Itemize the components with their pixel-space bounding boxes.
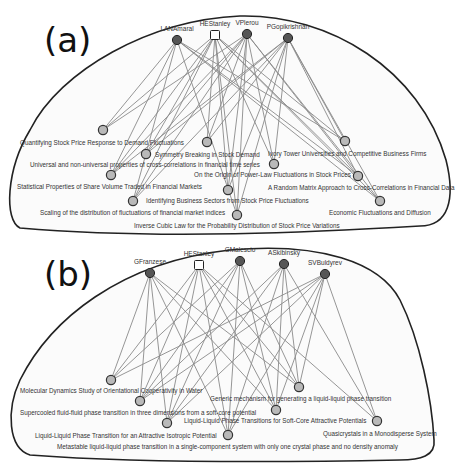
paper-node bbox=[223, 430, 232, 439]
author-name: GFranzese bbox=[134, 258, 167, 265]
paper-node bbox=[232, 210, 241, 219]
author-node bbox=[279, 259, 288, 268]
paper-title: Supercooled fluid-fluid phase transition… bbox=[20, 409, 256, 417]
author-name: GMalescio bbox=[225, 246, 256, 253]
paper-title: Quasicrystals in a Monodisperse System bbox=[323, 430, 437, 438]
paper-title: A Random Matrix Approach to Cross-Correl… bbox=[268, 184, 455, 192]
paper-node bbox=[372, 416, 381, 425]
panel-a: (a)Quantifying Stock Price Response to D… bbox=[10, 16, 455, 234]
paper-title: Statistical Properties of Share Volume T… bbox=[17, 183, 202, 191]
paper-node bbox=[106, 170, 115, 179]
author-name: HEStanley bbox=[200, 20, 231, 28]
paper-node bbox=[340, 136, 349, 145]
author-node bbox=[172, 35, 181, 44]
paper-title: Identifying Business Sectors from Stock … bbox=[146, 197, 309, 205]
author-name: VPlerou bbox=[235, 19, 259, 26]
paper-title: Ivory Tower Universities and Competitive… bbox=[268, 150, 426, 158]
author-node bbox=[283, 33, 292, 42]
paper-title: Generic mechanism for generating a liqui… bbox=[210, 395, 392, 403]
paper-title: Metastable liquid-liquid phase transitio… bbox=[57, 443, 399, 451]
paper-title: On the Origin of Power-Law Fluctuations … bbox=[194, 171, 351, 179]
paper-title: Liquid-Liquid Phase Transitions for Soft… bbox=[184, 417, 366, 425]
author-node bbox=[320, 269, 329, 278]
paper-node bbox=[294, 382, 303, 391]
panel-label: (b) bbox=[44, 254, 92, 294]
paper-title: Quantifying Stock Price Response to Dema… bbox=[20, 139, 184, 147]
author-name: LANAmaral bbox=[160, 25, 194, 32]
paper-node bbox=[106, 375, 115, 384]
paper-title: Liquid-Liquid Phase Transition for an At… bbox=[35, 432, 217, 440]
paper-title: Economic Fluctuations and Diffusion bbox=[329, 209, 431, 216]
paper-node bbox=[271, 405, 280, 414]
paper-node bbox=[202, 137, 211, 146]
paper-node bbox=[162, 418, 171, 427]
paper-title: Universal and non-universal properties o… bbox=[30, 161, 260, 169]
paper-node bbox=[128, 196, 137, 205]
paper-title: Inverse Cubic Law for the Probability Di… bbox=[134, 222, 340, 230]
author-name: SVBuldyrev bbox=[308, 259, 343, 267]
author-node-square bbox=[211, 31, 220, 40]
author-name: ASkibinsky bbox=[268, 249, 301, 257]
author-node bbox=[242, 29, 251, 38]
paper-node bbox=[135, 396, 144, 405]
author-name: HEStanley bbox=[184, 250, 215, 258]
paper-node bbox=[98, 125, 107, 134]
bipartite-network-figure: (a)Quantifying Stock Price Response to D… bbox=[0, 0, 466, 476]
author-node-square bbox=[195, 261, 204, 270]
paper-title: Molecular Dynamics Study of Orientationa… bbox=[20, 387, 202, 395]
paper-title: Symmetry Breaking in Stock Demand bbox=[155, 151, 260, 159]
paper-title: Scaling of the distribution of fluctuati… bbox=[40, 209, 225, 217]
author-node bbox=[145, 268, 154, 277]
panel-b: (b)Molecular Dynamics Study of Orientati… bbox=[11, 246, 437, 462]
paper-node bbox=[269, 159, 278, 168]
paper-node bbox=[375, 196, 384, 205]
author-node bbox=[235, 256, 244, 265]
paper-node bbox=[353, 171, 362, 180]
panel-label: (a) bbox=[44, 20, 91, 60]
paper-node bbox=[223, 185, 232, 194]
paper-node bbox=[141, 149, 150, 158]
author-name: PGopikrishnan bbox=[267, 23, 310, 31]
